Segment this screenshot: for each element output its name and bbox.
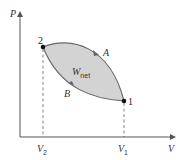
path-label-b: B [64, 88, 70, 99]
state-point-1 [122, 99, 127, 104]
net-work-sub: net [80, 72, 90, 79]
direction-arrow-a-icon [93, 50, 99, 56]
path-label-a: A [102, 47, 110, 58]
point-label-2: 2 [38, 35, 43, 46]
x-axis-label: V [168, 143, 176, 154]
point-label-1: 1 [128, 96, 133, 107]
tick-label-v1: V1 [118, 143, 128, 156]
tick-label-v2: V2 [37, 143, 47, 156]
pv-diagram: P V 2 1 A B Wnet V2 V1 [0, 0, 187, 160]
y-axis-label: P [9, 8, 16, 19]
